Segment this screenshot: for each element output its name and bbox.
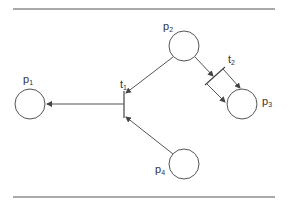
svg-text:p3: p3 xyxy=(262,95,272,108)
place-p4: p4 xyxy=(155,149,199,179)
arc-t2-p3-a xyxy=(223,69,240,88)
arcs xyxy=(47,57,240,154)
svg-text:t1: t1 xyxy=(120,78,127,91)
svg-text:t2: t2 xyxy=(228,53,235,66)
transition-t2: t2 xyxy=(205,53,235,85)
place-p3: p3 xyxy=(227,89,272,119)
arc-t2-p3-b xyxy=(206,83,225,102)
arc-p2-t1 xyxy=(126,57,173,93)
svg-text:p1: p1 xyxy=(23,73,33,86)
svg-text:p4: p4 xyxy=(155,163,165,176)
arc-p4-t1 xyxy=(126,117,173,154)
svg-text:p2: p2 xyxy=(163,20,173,33)
transition-t1: t1 xyxy=(120,78,127,118)
petri-net-diagram: p1 p2 p3 p4 t1 t2 xyxy=(0,0,287,200)
place-p2: p2 xyxy=(163,20,199,61)
place-p1: p1 xyxy=(15,73,45,119)
arc-p2-t2 xyxy=(195,57,213,76)
